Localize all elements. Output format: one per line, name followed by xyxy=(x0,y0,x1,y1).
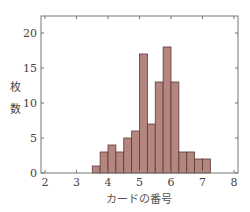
histogram-chart: 2345678 05101520 xyxy=(0,0,250,212)
y-tick-label: 10 xyxy=(23,97,37,110)
histogram-bar xyxy=(147,124,155,173)
histogram-bar xyxy=(140,54,148,173)
x-tick-label: 4 xyxy=(105,176,112,189)
y-axis-label-char1: 枚 xyxy=(10,78,21,94)
histogram-bar xyxy=(108,145,116,173)
histogram-bar xyxy=(132,131,140,173)
histogram-bar xyxy=(171,82,179,173)
x-axis-label: カードの番号 xyxy=(0,190,250,206)
x-tick-label: 6 xyxy=(168,176,175,189)
y-tick-label: 0 xyxy=(30,167,37,180)
histogram-bar xyxy=(195,159,203,173)
y-tick-label: 5 xyxy=(30,132,37,145)
x-tick-label: 2 xyxy=(42,176,49,189)
y-tick-label: 15 xyxy=(23,62,37,75)
histogram-bar xyxy=(124,138,132,173)
x-tick-label: 7 xyxy=(199,176,206,189)
histogram-bar xyxy=(155,82,163,173)
y-tick-label: 20 xyxy=(23,27,37,40)
x-tick-label: 5 xyxy=(136,176,143,189)
histogram-bars xyxy=(92,47,210,173)
histogram-bar xyxy=(100,152,108,173)
x-tick-label: 3 xyxy=(73,176,80,189)
histogram-bar xyxy=(116,152,124,173)
y-axis-label-char2: 数 xyxy=(10,100,21,116)
histogram-bar xyxy=(163,47,171,173)
x-tick-label: 8 xyxy=(231,176,238,189)
histogram-bar xyxy=(187,152,195,173)
histogram-bar xyxy=(203,159,211,173)
histogram-bar xyxy=(92,166,100,173)
histogram-bar xyxy=(179,152,187,173)
